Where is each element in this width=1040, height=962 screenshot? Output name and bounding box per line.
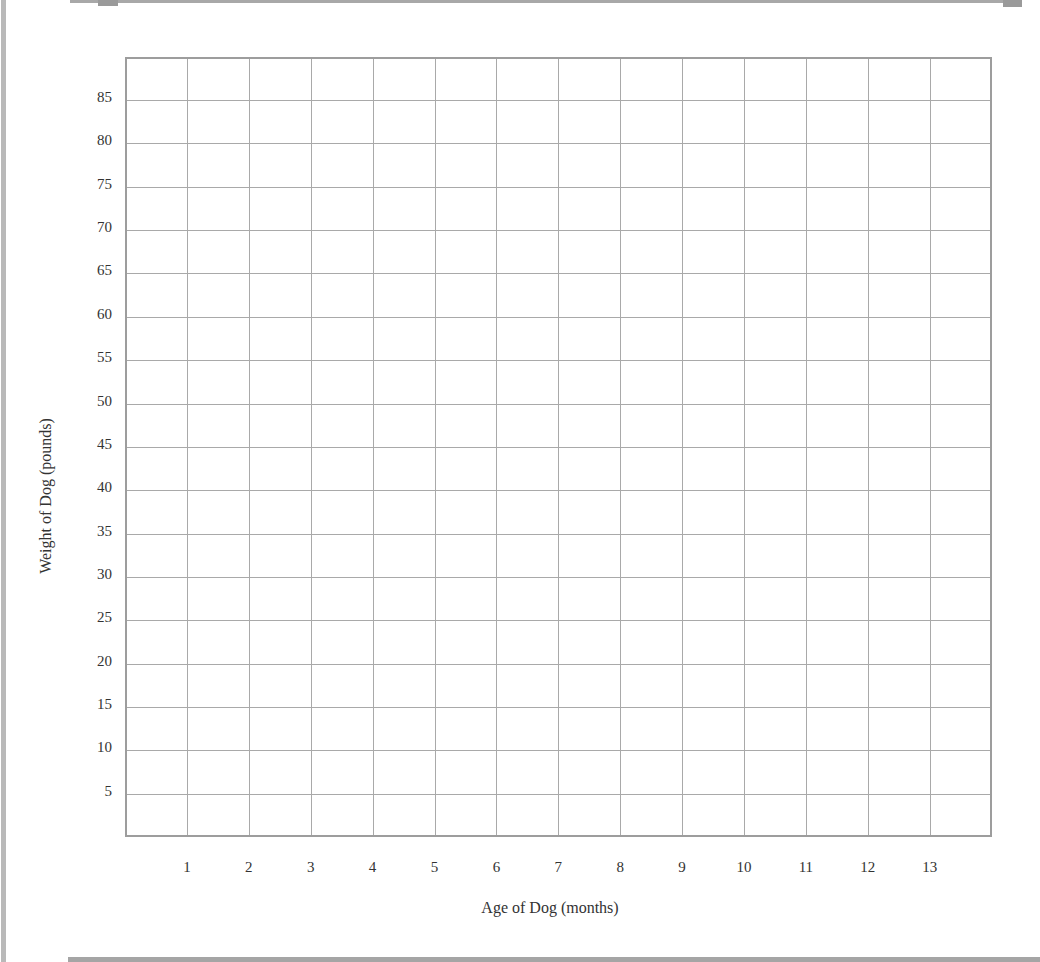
y-tick-label: 65: [72, 262, 112, 278]
x-tick-label: 13: [910, 859, 950, 875]
x-tick-label: 10: [724, 859, 764, 875]
bottom-rule: [68, 957, 1040, 962]
y-tick-label: 5: [72, 783, 112, 799]
y-tick-label: 80: [72, 132, 112, 148]
y-tick-label: 70: [72, 219, 112, 235]
y-tick-label: 60: [72, 306, 112, 322]
y-tick-label: 30: [72, 566, 112, 582]
x-axis-label: Age of Dog (months): [400, 899, 700, 917]
gridline-horizontal: [127, 750, 990, 751]
y-tick-label: 45: [72, 436, 112, 452]
plot-area: [125, 57, 992, 837]
gridline-horizontal: [127, 707, 990, 708]
gridline-horizontal: [127, 620, 990, 621]
gridline-horizontal: [127, 404, 990, 405]
x-tick-label: 12: [848, 859, 888, 875]
y-tick-label: 15: [72, 696, 112, 712]
x-tick-label: 6: [476, 859, 516, 875]
y-tick-label: 85: [72, 89, 112, 105]
y-tick-label: 75: [72, 176, 112, 192]
x-tick-label: 11: [786, 859, 826, 875]
gridline-horizontal: [127, 577, 990, 578]
top-rule-cap-right: [1003, 0, 1022, 7]
y-tick-label: 50: [72, 393, 112, 409]
x-tick-label: 1: [167, 859, 207, 875]
gridline-horizontal: [127, 187, 990, 188]
gridline-horizontal: [127, 317, 990, 318]
gridline-horizontal: [127, 447, 990, 448]
y-tick-label: 10: [72, 739, 112, 755]
x-tick-label: 8: [600, 859, 640, 875]
y-tick-label: 25: [72, 609, 112, 625]
gridline-horizontal: [127, 100, 990, 101]
top-rule: [70, 0, 1020, 3]
gridline-horizontal: [127, 273, 990, 274]
page-edge-left: [1, 0, 6, 962]
gridline-horizontal: [127, 360, 990, 361]
gridline-horizontal: [127, 664, 990, 665]
y-tick-label: 20: [72, 653, 112, 669]
x-tick-label: 5: [415, 859, 455, 875]
x-tick-label: 2: [229, 859, 269, 875]
gridline-horizontal: [127, 230, 990, 231]
x-tick-label: 4: [353, 859, 393, 875]
top-rule-cap-left: [98, 0, 118, 6]
y-axis-label: Weight of Dog (pounds): [37, 346, 55, 646]
y-tick-label: 35: [72, 523, 112, 539]
gridline-horizontal: [127, 143, 990, 144]
gridline-horizontal: [127, 490, 990, 491]
x-tick-label: 7: [538, 859, 578, 875]
gridline-horizontal: [127, 534, 990, 535]
x-tick-label: 3: [291, 859, 331, 875]
x-tick-label: 9: [662, 859, 702, 875]
y-tick-label: 40: [72, 479, 112, 495]
y-tick-label: 55: [72, 349, 112, 365]
gridline-horizontal: [127, 794, 990, 795]
